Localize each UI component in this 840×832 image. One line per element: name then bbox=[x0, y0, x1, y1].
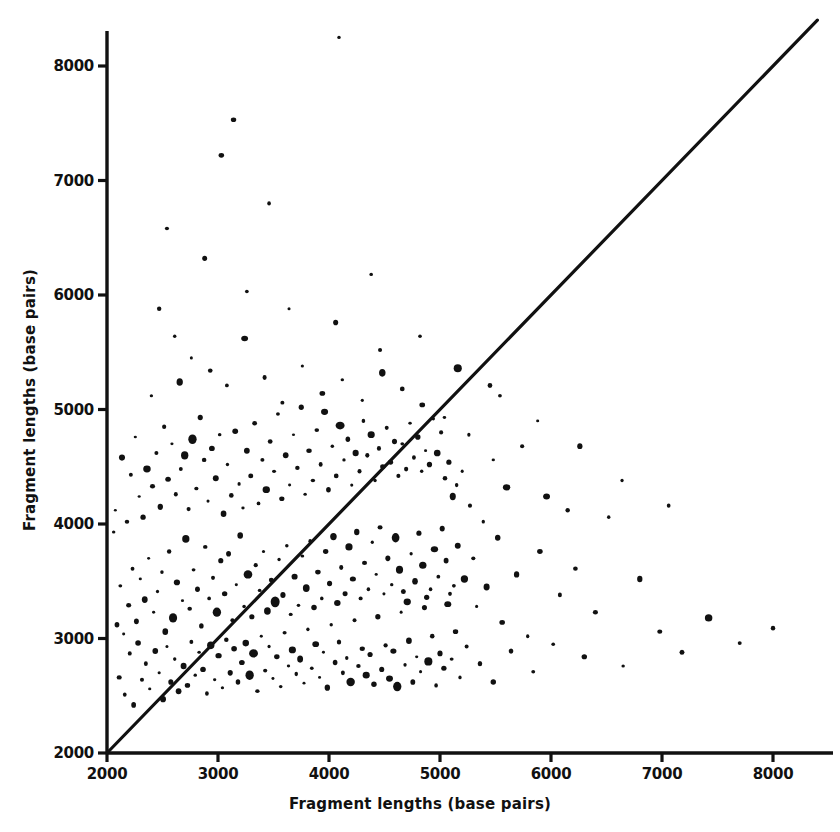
y-tick-label: 2000 bbox=[12, 744, 94, 762]
scatter-point bbox=[162, 628, 168, 635]
scatter-point bbox=[738, 641, 742, 645]
scatter-point bbox=[400, 442, 404, 445]
scatter-point bbox=[276, 412, 280, 416]
x-tick-label: 3000 bbox=[198, 765, 239, 783]
scatter-point bbox=[154, 451, 158, 455]
scatter-point bbox=[337, 36, 340, 39]
scatter-point bbox=[152, 611, 155, 614]
scatter-point bbox=[373, 479, 376, 482]
scatter-point bbox=[245, 670, 253, 680]
scatter-point bbox=[499, 620, 505, 625]
scatter-point bbox=[339, 565, 343, 570]
scatter-point bbox=[228, 670, 233, 676]
scatter-point bbox=[362, 419, 366, 423]
scatter-point bbox=[160, 696, 166, 702]
scatter-point bbox=[213, 608, 221, 617]
scatter-point bbox=[245, 290, 249, 294]
scatter-point bbox=[134, 436, 137, 439]
scatter-point bbox=[416, 530, 421, 535]
scatter-point bbox=[237, 532, 243, 539]
scatter-point bbox=[192, 568, 196, 571]
scatter-point bbox=[267, 645, 270, 648]
scatter-point bbox=[327, 581, 332, 587]
scatter-point bbox=[187, 607, 192, 611]
scatter-point bbox=[326, 487, 331, 493]
scatter-point bbox=[165, 645, 168, 648]
scatter-point bbox=[363, 672, 370, 679]
scatter-point bbox=[242, 605, 246, 608]
scatter-point bbox=[543, 493, 550, 499]
scatter-point bbox=[230, 618, 234, 622]
y-tick-label: 3000 bbox=[12, 630, 94, 648]
scatter-point bbox=[444, 558, 449, 564]
scatter-point bbox=[593, 610, 598, 614]
scatter-point bbox=[147, 557, 150, 560]
scatter-point bbox=[252, 421, 257, 426]
scatter-point bbox=[498, 394, 502, 398]
scatter-point bbox=[289, 647, 296, 654]
scatter-point bbox=[226, 551, 231, 557]
scatter-point bbox=[225, 384, 229, 388]
x-tick-label: 8000 bbox=[753, 765, 794, 783]
scatter-point bbox=[277, 558, 280, 562]
scatter-point bbox=[342, 458, 345, 461]
scatter-point bbox=[292, 574, 298, 580]
scatter-point bbox=[419, 402, 425, 407]
scatter-point bbox=[224, 637, 228, 641]
scatter-point bbox=[450, 493, 456, 500]
scatter-point bbox=[202, 458, 207, 462]
scatter-point bbox=[345, 656, 348, 660]
scatter-point bbox=[385, 426, 389, 430]
scatter-point bbox=[235, 583, 238, 586]
scatter-point bbox=[353, 618, 357, 622]
scatter-point bbox=[241, 507, 244, 510]
scatter-plot-figure: 2000300040005000600070008000 20003000400… bbox=[0, 0, 840, 832]
scatter-point bbox=[244, 570, 253, 578]
scatter-point bbox=[117, 675, 122, 679]
scatter-point bbox=[478, 661, 483, 666]
scatter-point bbox=[412, 578, 418, 585]
scatter-point bbox=[239, 660, 245, 665]
scatter-point bbox=[236, 679, 241, 684]
x-tick-label: 6000 bbox=[531, 765, 572, 783]
scatter-point bbox=[573, 567, 578, 571]
scatter-point bbox=[128, 651, 132, 655]
scatter-point bbox=[400, 611, 403, 614]
scatter-point bbox=[384, 643, 388, 647]
scatter-point bbox=[188, 434, 196, 444]
scatter-point bbox=[165, 477, 171, 482]
scatter-point bbox=[509, 649, 514, 654]
scatter-point bbox=[209, 446, 215, 451]
scatter-point bbox=[380, 464, 385, 469]
scatter-point bbox=[314, 428, 319, 432]
scatter-point bbox=[361, 399, 364, 402]
scatter-point bbox=[182, 535, 189, 543]
scatter-point bbox=[333, 320, 338, 326]
scatter-point bbox=[280, 592, 285, 598]
scatter-point bbox=[221, 686, 224, 689]
scatter-point bbox=[482, 520, 485, 524]
scatter-point bbox=[424, 657, 432, 665]
y-tick-label: 8000 bbox=[12, 57, 94, 75]
scatter-point bbox=[271, 677, 274, 680]
scatter-point bbox=[368, 431, 375, 438]
scatter-point bbox=[565, 508, 569, 513]
scatter-point bbox=[140, 514, 145, 519]
x-tick-label: 7000 bbox=[642, 765, 683, 783]
scatter-point bbox=[441, 666, 446, 671]
scatter-point bbox=[123, 692, 127, 696]
scatter-point bbox=[337, 639, 341, 644]
scatter-point bbox=[197, 651, 201, 654]
scatter-point bbox=[390, 648, 396, 653]
scatter-point bbox=[444, 601, 451, 607]
scatter-point bbox=[427, 462, 432, 468]
scatter-point bbox=[403, 663, 406, 667]
scatter-point bbox=[388, 460, 393, 465]
scatter-point bbox=[142, 596, 148, 603]
scatter-point bbox=[288, 484, 291, 487]
scatter-point bbox=[345, 543, 352, 550]
scatter-point bbox=[283, 452, 289, 458]
scatter-point bbox=[321, 409, 328, 415]
scatter-point bbox=[165, 227, 169, 231]
scatter-point bbox=[375, 573, 378, 576]
